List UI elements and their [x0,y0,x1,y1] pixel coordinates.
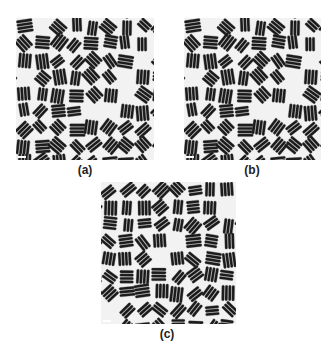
nanorod [231,233,234,249]
nanorod [237,89,252,92]
nanorod-bundle [305,37,314,51]
panel-label-c: (c) [147,327,187,341]
nanorod [70,127,86,130]
nanorod [309,37,312,51]
nanorod-bundle [119,35,130,50]
nanorod [75,18,78,32]
nanorod [203,201,206,215]
nanorod [290,20,293,35]
nanorod [108,201,111,216]
micrograph-panel-b [184,18,321,160]
nanorod [225,285,228,301]
nanorod [111,201,114,216]
nanorod [162,284,165,299]
nanorod [69,89,84,92]
nanorod [151,268,166,271]
nanorod [120,281,134,284]
nanorod [122,20,125,35]
nanorod [232,285,235,301]
nanorod [69,96,84,99]
nanorod [126,20,129,35]
nanorod [238,124,254,127]
nanorod [151,278,166,281]
nanorod [148,200,151,215]
nanorod [243,18,246,32]
nanorod [70,124,86,127]
nanorod [128,252,131,266]
nanorod [151,275,166,278]
nanorod [121,252,124,266]
nanorod [72,18,75,32]
nanorod [240,18,243,32]
nanorod [28,154,31,160]
nanorod [114,201,117,216]
nanorod [79,18,82,32]
nanorod [155,284,158,299]
nanorod [141,37,144,51]
nanorod [125,252,128,266]
nanorod [166,284,169,299]
nanorod [129,20,132,35]
nanorod [228,285,231,301]
nanorod [225,233,228,249]
nanorod-bundle [290,20,300,35]
nanorod-bundle [287,35,298,50]
micrograph-image-b [184,18,321,160]
nanorod-bundle [173,199,184,215]
nanorod [237,93,252,96]
nanorod-bundle [223,218,234,234]
nanorod [172,319,185,322]
nanorod-bundle [255,20,266,36]
nanorod [144,37,147,51]
nanorod-bundle [172,319,186,324]
nanorod [237,96,252,99]
scale-bar [18,156,26,158]
nanorod [213,201,216,215]
nanorod-bundle [225,233,235,249]
nanorod [312,37,315,51]
nanorod [145,201,148,216]
nanorod [188,321,203,324]
nanorod [70,134,86,137]
nanorod-bundle [219,270,234,281]
nanorod [205,182,208,196]
nanorod [297,20,300,35]
nanorod-bundle [37,87,48,101]
nanorod-bundle [205,87,216,101]
nanorod-bundle [172,218,183,233]
nanorod-bundle [137,218,152,229]
nanorod-bundle [205,305,220,316]
nanorod-bundle [238,70,249,86]
nanorod [120,277,134,280]
nanorod [247,18,250,32]
micrograph-panel-c [101,182,236,324]
panel-label-a: (a) [65,163,105,177]
nanorod-bundle [72,18,82,32]
nanorod-bundle [66,106,81,117]
nanorod [210,201,213,215]
nanorod [138,201,141,216]
nanorod [305,37,308,51]
nanorod [151,271,166,274]
nanorod [141,201,144,216]
scale-bar [186,156,194,158]
nanorod [172,323,185,324]
nanorod-bundle [188,185,203,196]
nanorod [238,127,254,130]
nanorod [212,182,215,196]
scale-bar [103,320,111,322]
nanorod-bundle [70,70,81,86]
nanorod [70,131,86,134]
micrograph-image-a [16,18,154,160]
nanorod [238,131,254,134]
nanorod [104,200,107,215]
nanorod [196,154,199,160]
nanorod-bundle [137,37,146,51]
nanorod-bundle [188,321,203,324]
nanorod [222,285,225,301]
nanorod [137,37,140,51]
nanorod-bundle [87,20,98,36]
nanorod [209,182,212,196]
micrograph-image-c [101,182,236,324]
panel-label-b: (b) [232,163,272,177]
